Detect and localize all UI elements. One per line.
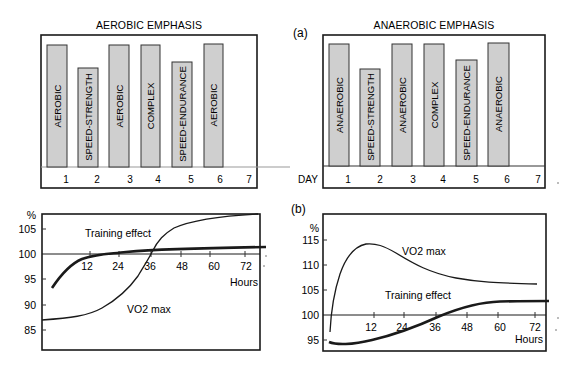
svg-text:6: 6	[217, 174, 223, 185]
aerobic-recovery-chart: % 105 100 95 90 85 12 24 36 48 60	[18, 209, 266, 350]
svg-text:5: 5	[473, 174, 479, 185]
chart-frame	[42, 214, 260, 350]
bar-label: AEROBIC	[114, 84, 125, 127]
svg-text:110: 110	[302, 259, 319, 271]
bar-label: SPEED-STRENGTH	[83, 73, 94, 161]
bar-label: SPEED-STRENGTH	[365, 73, 376, 161]
bar-day-1: ANAEROBIC	[329, 44, 349, 166]
training-effect-label: Training effect	[85, 227, 151, 239]
svg-text:115: 115	[302, 234, 319, 246]
bar-label: SPEED-ENDURANCE	[461, 65, 472, 161]
svg-text:105: 105	[301, 284, 319, 296]
bar-label: AEROBIC	[208, 83, 219, 126]
svg-text:24: 24	[112, 260, 124, 272]
svg-text:12: 12	[365, 321, 377, 333]
bar-label: ANAEROBIC	[493, 76, 504, 132]
bar-day-6: AEROBIC	[204, 44, 223, 167]
bar-day-1: AEROBIC	[47, 45, 67, 167]
bar-label: ANAEROBIC	[334, 77, 345, 133]
svg-text:2: 2	[94, 174, 100, 185]
svg-text:3: 3	[410, 174, 416, 185]
svg-text:95: 95	[307, 334, 319, 346]
x-unit: Hours	[515, 333, 543, 345]
svg-text:4: 4	[440, 174, 446, 185]
training-effect-label: Training effect	[385, 289, 451, 301]
y-unit: %	[27, 209, 36, 221]
chart-title: AEROBIC EMPHASIS	[96, 19, 202, 31]
y-unit: %	[310, 222, 319, 234]
svg-text:6: 6	[504, 174, 510, 185]
svg-text:1: 1	[345, 174, 351, 185]
svg-text:60: 60	[208, 260, 220, 272]
bar-label: ANAEROBIC	[397, 77, 408, 133]
x-tick-labels: 12 24 36 48 60 72 Hours	[81, 260, 258, 288]
svg-text:5: 5	[188, 174, 194, 185]
svg-text:72: 72	[529, 321, 541, 333]
bar-label: COMPLEX	[429, 81, 440, 128]
day-axis: DAY 1 2 3 4 5 6 7	[298, 174, 541, 185]
svg-text:105: 105	[18, 223, 36, 235]
bar-day-2: SPEED-STRENGTH	[78, 68, 98, 167]
svg-text:90: 90	[24, 299, 36, 311]
bar-label: COMPLEX	[145, 82, 156, 129]
svg-text:60: 60	[494, 321, 506, 333]
panel-label-a: (a)	[293, 26, 308, 40]
anaerobic-emphasis-chart: (a) ANAEROBIC EMPHASIS ANAEROBIC SPEED-S…	[293, 19, 559, 188]
aerobic-emphasis-chart: AEROBIC EMPHASIS AEROBIC SPEED-STRENGTH …	[41, 19, 290, 188]
svg-text:85: 85	[24, 324, 36, 336]
svg-text:12: 12	[81, 260, 93, 272]
svg-text:4: 4	[155, 174, 161, 185]
vo2-max-label: VO2 max	[127, 303, 172, 315]
svg-text:7: 7	[535, 174, 541, 185]
bar-label: AEROBIC	[52, 84, 63, 127]
day-axis-label: DAY	[298, 174, 318, 185]
svg-text:3: 3	[127, 174, 133, 185]
vo2-max-label: VO2 max	[402, 245, 447, 257]
bar-label: SPEED-ENDURANCE	[177, 66, 188, 162]
bar-day-3: ANAEROBIC	[392, 44, 412, 166]
bar-day-5: SPEED-ENDURANCE	[456, 60, 477, 166]
panel-label-b: (b)	[291, 202, 306, 216]
x-unit: Hours	[230, 276, 258, 288]
svg-text:95: 95	[24, 273, 36, 285]
bar-day-2: SPEED-STRENGTH	[360, 69, 380, 166]
svg-text:2: 2	[377, 174, 383, 185]
anaerobic-recovery-chart: (b) % 115 110 105 100 95 12 24 36 48	[291, 202, 559, 351]
svg-text:72: 72	[240, 260, 252, 272]
svg-text:36: 36	[429, 321, 441, 333]
bar-day-4: COMPLEX	[424, 44, 444, 166]
bar-day-6: ANAEROBIC	[488, 43, 509, 166]
bar-day-3: AEROBIC	[109, 45, 129, 167]
day-axis: 1 2 3 4 5 6 7	[63, 174, 252, 185]
svg-text:100: 100	[301, 309, 319, 321]
svg-text:48: 48	[176, 260, 188, 272]
svg-text:7: 7	[246, 174, 252, 185]
stray-dot	[557, 182, 559, 184]
bar-day-5: SPEED-ENDURANCE	[172, 62, 192, 167]
chart-title: ANAEROBIC EMPHASIS	[374, 19, 495, 31]
x-tick-labels: 12 24 36 48 60 72 Hours	[365, 321, 543, 345]
bar-day-4: COMPLEX	[141, 45, 160, 167]
svg-text:1: 1	[63, 174, 69, 185]
svg-text:48: 48	[461, 321, 473, 333]
svg-text:100: 100	[18, 248, 36, 260]
figure: AEROBIC EMPHASIS AEROBIC SPEED-STRENGTH …	[0, 0, 572, 372]
